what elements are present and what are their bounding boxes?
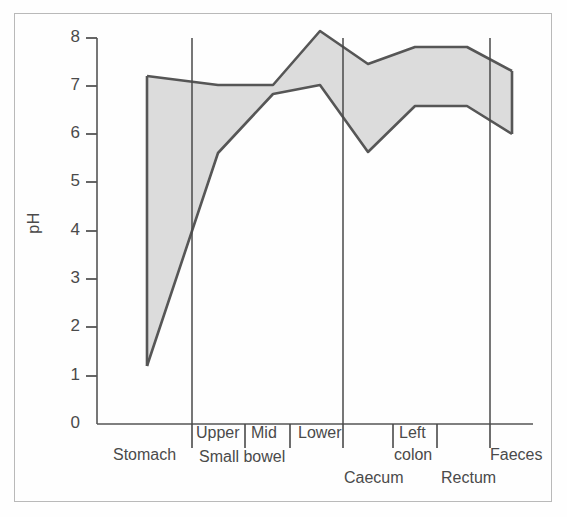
y-tick-label-5: 5 <box>58 171 80 191</box>
y-tick-label-2: 2 <box>58 316 80 336</box>
y-tick-label-6: 6 <box>58 123 80 143</box>
y-tick-label-7: 7 <box>58 75 80 95</box>
category-label-upper: Upper <box>196 424 240 442</box>
category-label-rectum: Rectum <box>441 469 496 487</box>
ph-range-chart <box>0 0 567 517</box>
category-label-colon: colon <box>394 446 432 464</box>
category-label-caecum: Caecum <box>344 469 404 487</box>
category-label-lower: Lower <box>298 424 342 442</box>
category-label-faeces: Faeces <box>490 446 542 464</box>
category-label-mid: Mid <box>251 424 277 442</box>
y-tick-label-1: 1 <box>58 365 80 385</box>
category-label-stomach: Stomach <box>113 446 176 464</box>
y-axis-title: pH <box>25 203 43 243</box>
category-label-left: Left <box>399 424 426 442</box>
y-tick-label-3: 3 <box>58 268 80 288</box>
y-tick-label-4: 4 <box>58 220 80 240</box>
figure-page: pH 8 7 6 5 4 3 2 1 0 Stomach Upper Mid L… <box>0 0 567 517</box>
y-tick-label-8: 8 <box>58 27 80 47</box>
category-label-small-bowel: Small bowel <box>199 448 285 466</box>
y-tick-marks <box>86 38 97 376</box>
y-tick-label-0: 0 <box>58 413 80 433</box>
